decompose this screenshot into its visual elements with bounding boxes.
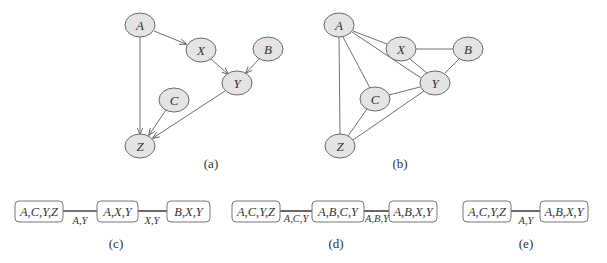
edge-x-y [211, 59, 228, 74]
svg-text:A,C,Y,Z: A,C,Y,Z [236, 205, 276, 219]
node-b: B [453, 37, 483, 61]
svg-text:A,X,Y: A,X,Y [102, 205, 134, 219]
node-z: Z [125, 134, 155, 158]
node-c: C [159, 88, 189, 112]
edge-b-y [246, 59, 259, 73]
svg-text:B,X,Y: B,X,Y [174, 205, 205, 219]
clique-box: A,B,C,Y [312, 201, 364, 222]
svg-text:C: C [371, 92, 380, 107]
edge-x-y [410, 59, 427, 73]
caption-b: (b) [392, 156, 407, 171]
svg-text:B: B [264, 42, 272, 57]
node-x: X [186, 38, 216, 62]
separator-label: X,Y [144, 215, 161, 226]
svg-text:A,C,Y,Z: A,C,Y,Z [19, 205, 59, 219]
svg-text:X: X [396, 42, 406, 57]
edge-c-y [389, 87, 420, 95]
svg-text:A,B,X,Y: A,B,X,Y [543, 205, 585, 219]
caption-d: (d) [328, 236, 343, 251]
clique-box: A,C,Y,Z [232, 201, 280, 222]
separator-label: A,Y [72, 215, 89, 226]
separator-label: A,C,Y [283, 213, 310, 224]
clique-box: A,X,Y [97, 201, 138, 222]
svg-text:B: B [464, 42, 472, 57]
junction-tree-c: A,C,Y,Z A,X,Y B,X,Y A,Y X,Y (c) [15, 201, 210, 251]
edge-b-y [445, 59, 459, 73]
svg-text:A: A [135, 18, 144, 33]
node-b: B [253, 37, 283, 61]
edge-a-x [154, 31, 186, 44]
separator-label: A,B,Y [364, 213, 390, 224]
graph-a: A X B Y C Z (a) [125, 13, 283, 171]
svg-text:A,C,Y,Z: A,C,Y,Z [467, 205, 507, 219]
clique-box: A,C,Y,Z [463, 201, 511, 222]
svg-text:Z: Z [136, 139, 144, 154]
junction-tree-e: A,C,Y,Z A,B,X,Y A,Y (e) [463, 201, 588, 251]
node-y: Y [420, 71, 450, 95]
figure-canvas: A X B Y C Z (a) A X B Y C Z (b) A,C,Y,Z … [0, 0, 607, 263]
separator-label: A,Y [518, 215, 535, 226]
svg-text:X: X [196, 43, 206, 58]
svg-text:A,B,C,Y: A,B,C,Y [317, 205, 360, 219]
svg-text:C: C [170, 93, 179, 108]
junction-tree-d: A,C,Y,Z A,B,C,Y A,B,X,Y A,C,Y A,B,Y (d) [232, 201, 437, 251]
edge-a-x [353, 31, 387, 44]
edge-a-z [339, 37, 340, 134]
node-a: A [324, 13, 354, 37]
clique-box: B,X,Y [167, 201, 210, 222]
node-c: C [360, 87, 390, 111]
caption-e: (e) [519, 236, 533, 251]
clique-box: A,C,Y,Z [15, 201, 63, 222]
clique-box: A,B,X,Y [389, 201, 437, 222]
svg-text:Z: Z [336, 139, 344, 154]
svg-text:A: A [334, 18, 343, 33]
graph-b: A X B Y C Z (b) [324, 13, 483, 171]
node-z: Z [325, 134, 355, 158]
node-a: A [125, 13, 155, 37]
node-x: X [386, 37, 416, 61]
svg-text:A,B,X,Y: A,B,X,Y [392, 205, 434, 219]
edge-a-c [343, 37, 370, 88]
node-y: Y [222, 71, 252, 95]
clique-box: A,B,X,Y [540, 201, 588, 222]
caption-c: (c) [109, 236, 123, 251]
caption-a: (a) [204, 156, 218, 171]
